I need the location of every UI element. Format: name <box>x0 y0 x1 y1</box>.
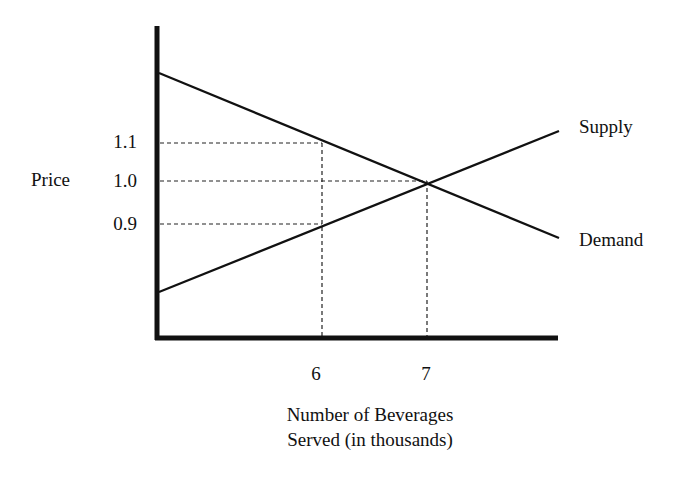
x-axis-label: Number of Beverages Served (in thousands… <box>230 402 510 452</box>
y-axis-label: Price <box>31 170 70 189</box>
supply-label: Supply <box>579 117 633 136</box>
demand-label: Demand <box>579 230 643 249</box>
x-tick-7: 7 <box>411 364 441 383</box>
y-tick-1-1: 1.1 <box>97 132 137 151</box>
y-tick-1-0: 1.0 <box>97 171 137 190</box>
x-axis-label-line2: Served (in thousands) <box>230 427 510 452</box>
x-tick-6: 6 <box>301 364 331 383</box>
reference-lines <box>160 143 427 336</box>
y-tick-0-9: 0.9 <box>97 214 137 233</box>
x-axis-label-line1: Number of Beverages <box>230 402 510 427</box>
